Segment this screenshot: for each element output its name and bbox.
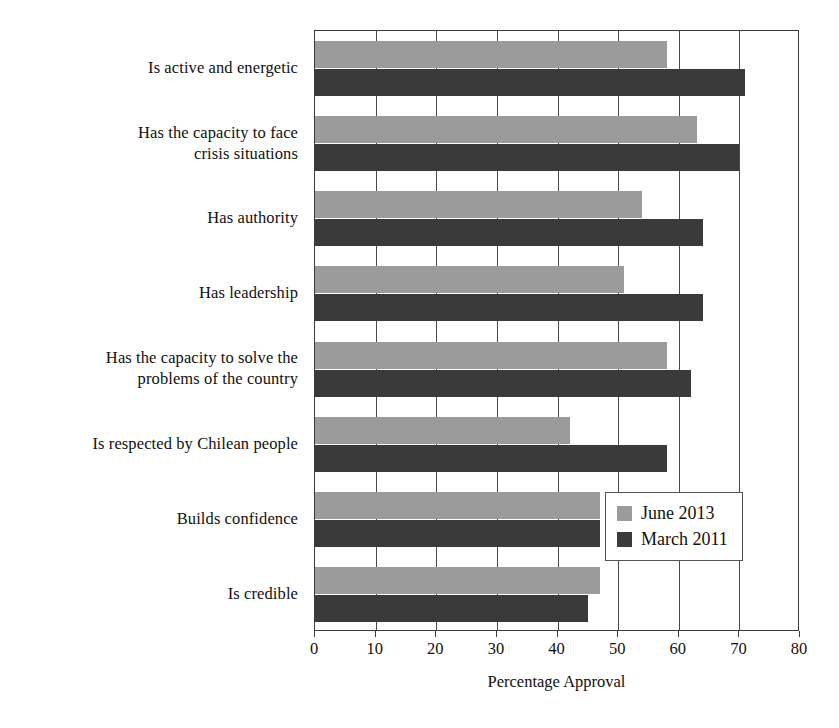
x-tick-label: 40 xyxy=(537,639,577,659)
x-axis: 01020304050607080 xyxy=(314,631,799,671)
x-tick-mark xyxy=(435,631,436,637)
bar-chart-figure: Is active and energeticHas the capacity … xyxy=(0,0,839,728)
bar xyxy=(315,191,642,218)
bar xyxy=(315,445,667,472)
x-tick-mark xyxy=(738,631,739,637)
category-label: Has the capacity to facecrisis situation… xyxy=(10,122,298,164)
bar xyxy=(315,116,697,143)
x-tick-mark xyxy=(496,631,497,637)
chart-legend: June 2013 March 2011 xyxy=(605,492,743,561)
bar xyxy=(315,294,703,321)
bar xyxy=(315,417,570,444)
legend-swatch-icon-june-2013 xyxy=(617,506,632,521)
legend-item-march-2011: March 2011 xyxy=(617,526,728,552)
category-label: Has the capacity to solve theproblems of… xyxy=(10,347,298,389)
x-tick-mark xyxy=(557,631,558,637)
category-label: Builds confidence xyxy=(10,508,298,529)
bar xyxy=(315,41,667,68)
legend-item-june-2013: June 2013 xyxy=(617,500,728,526)
x-tick-label: 20 xyxy=(415,639,455,659)
legend-label-june-2013: June 2013 xyxy=(641,503,715,524)
category-label: Has leadership xyxy=(10,282,298,303)
x-tick-label: 30 xyxy=(476,639,516,659)
x-tick-label: 0 xyxy=(294,639,334,659)
x-tick-label: 50 xyxy=(597,639,637,659)
bar xyxy=(315,342,667,369)
x-axis-title: Percentage Approval xyxy=(314,672,799,692)
bar xyxy=(315,520,600,547)
x-tick-label: 60 xyxy=(658,639,698,659)
x-tick-label: 10 xyxy=(355,639,395,659)
category-label: Is credible xyxy=(10,583,298,604)
bar xyxy=(315,69,745,96)
x-tick-label: 70 xyxy=(718,639,758,659)
bar xyxy=(315,567,600,594)
legend-label-march-2011: March 2011 xyxy=(641,529,728,550)
category-label: Has authority xyxy=(10,207,298,228)
bar xyxy=(315,219,703,246)
bar xyxy=(315,266,624,293)
bar xyxy=(315,144,739,171)
x-tick-mark xyxy=(617,631,618,637)
x-tick-mark xyxy=(799,631,800,637)
x-tick-mark xyxy=(678,631,679,637)
bar xyxy=(315,492,600,519)
category-label: Is active and energetic xyxy=(10,57,298,78)
category-label: Is respected by Chilean people xyxy=(10,433,298,454)
bar xyxy=(315,370,691,397)
x-tick-mark xyxy=(375,631,376,637)
category-axis-labels: Is active and energeticHas the capacity … xyxy=(10,30,306,631)
x-tick-label: 80 xyxy=(779,639,819,659)
x-tick-mark xyxy=(314,631,315,637)
bar xyxy=(315,595,588,622)
legend-swatch-icon-march-2011 xyxy=(617,532,632,547)
